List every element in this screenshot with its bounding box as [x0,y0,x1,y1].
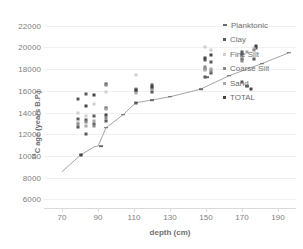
data-point [77,122,80,125]
data-point [209,53,212,56]
legend-item-label: TOTAL [230,93,255,102]
legend-swatch-sand-icon [223,82,226,85]
y-axis-tick-label: 10000 [18,151,41,160]
legend-swatch-total-icon [223,96,226,99]
y-axis-tick-labels: 6000800010000120001400016000180002000022… [0,0,41,249]
legend-item-label: Planktonic [231,21,268,30]
legend-swatch-coarsesilt-icon [223,67,226,70]
data-point [121,114,125,116]
x-axis-title: depth (cm) [44,228,296,237]
y-axis-tick-label: 22000 [18,21,41,30]
data-point [204,76,207,79]
data-point [92,102,95,105]
legend-item-label: Sand [230,79,249,88]
data-point [134,73,137,76]
data-point [209,49,212,52]
data-point [105,108,108,111]
x-axis-tick-label: 110 [128,213,141,222]
data-point [134,101,137,104]
data-point [204,46,207,49]
data-point [85,104,88,107]
legend: PlanktonicClayFine SiltCoarse SiltSandTO… [223,18,301,105]
legend-item-sand[interactable]: Sand [223,76,301,91]
data-point [105,114,108,117]
data-point [92,125,95,128]
data-point [151,85,154,88]
x-axis-tick [278,208,279,212]
x-axis-tick-label: 150 [199,213,212,222]
y-axis-tick-label: 20000 [18,43,41,52]
x-axis-tick-label: 190 [271,213,284,222]
data-point [134,88,137,91]
legend-item-planktonic[interactable]: Planktonic [223,18,301,33]
data-point [105,83,108,86]
legend-item-total[interactable]: TOTAL [223,91,301,106]
data-point [77,125,80,128]
legend-swatch-planktonic-icon [223,24,227,26]
y-axis-tick-label: 8000 [23,173,41,182]
x-axis-tick [62,208,63,212]
y-axis-tick-label: 12000 [18,130,41,139]
data-point [199,88,203,90]
x-axis-tick-label: 70 [58,213,67,222]
legend-swatch-finesilt-icon [223,53,226,56]
data-point [77,111,80,114]
legend-item-finesilt[interactable]: Fine Silt [223,47,301,62]
x-axis-tick-label: 130 [163,213,176,222]
data-point [92,119,95,122]
data-point [85,132,88,135]
data-point [79,153,82,156]
data-point [105,90,108,93]
data-point [209,61,212,64]
x-axis-tick-label: 90 [94,213,103,222]
data-point [104,127,108,129]
data-point [105,120,108,123]
y-axis-tick-label: 14000 [18,108,41,117]
x-axis-tick-label: 170 [235,213,248,222]
data-point [99,145,103,147]
data-point [92,93,95,96]
data-point [85,93,88,96]
data-point [77,98,80,101]
data-point [151,90,154,93]
x-axis-tick [206,208,207,212]
data-point [85,115,88,118]
data-point [105,117,108,120]
legend-item-label: Fine Silt [230,50,259,59]
data-point [209,67,212,70]
y-axis-tick-label: 18000 [18,65,41,74]
legend-item-label: Clay [230,35,246,44]
data-point [92,114,95,117]
data-point [204,57,207,60]
data-point [209,72,212,75]
data-point [150,99,154,101]
legend-item-clay[interactable]: Clay [223,33,301,48]
x-axis-tick [134,208,135,212]
x-axis-tick [98,208,99,212]
legend-swatch-clay-icon [223,38,226,41]
y-axis-tick-label: 6000 [23,195,41,204]
legend-item-coarsesilt[interactable]: Coarse Silt [223,62,301,77]
legend-item-label: Coarse Silt [230,64,269,73]
data-point [204,69,207,72]
data-point [85,124,88,127]
y-axis-tick-label: 16000 [18,86,41,95]
scatter-chart: 14C age (years B.P.) 6000800010000120001… [0,0,303,249]
x-axis-tick [242,208,243,212]
x-axis-tick [170,208,171,212]
data-point [168,96,172,98]
data-point [134,91,137,94]
